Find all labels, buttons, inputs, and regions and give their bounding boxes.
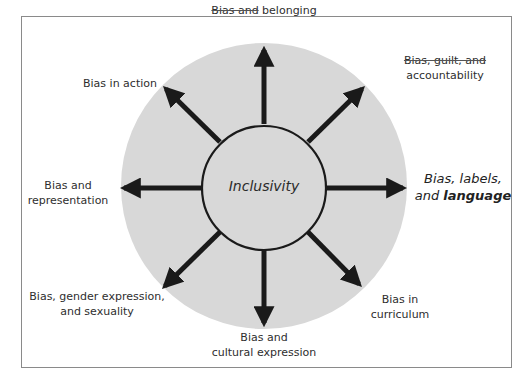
label-line-1: Bias and [20, 178, 116, 193]
label-line-1: Bias in [360, 292, 440, 307]
label-text: belonging [259, 4, 317, 17]
label-line-2: representation [20, 193, 116, 208]
label-bias-and-belonging: Bias and belonging [204, 3, 324, 18]
label-line-2: cultural expression [200, 345, 328, 360]
label-line-2: accountability [390, 68, 500, 83]
label-line-1: Bias, gender expression, [22, 289, 172, 304]
label-bias-labels-language: Bias, labels, and language [404, 170, 522, 204]
label-bias-cultural-expression: Bias and cultural expression [200, 330, 328, 360]
label-bias-gender-sexuality: Bias, gender expression, and sexuality [22, 289, 172, 319]
struck-text: Bias and [211, 4, 258, 17]
label-line-1: Bias, labels, [404, 170, 522, 187]
label-line-2: curriculum [360, 307, 440, 322]
label-bias-guilt-accountability: Bias, guilt, and accountability [390, 53, 500, 83]
label-line-2: and language [404, 187, 522, 204]
label-bias-in-action: Bias in action [72, 76, 168, 91]
label-line-1: Bias in action [72, 76, 168, 91]
label-line-1: Bias, guilt, and [390, 53, 500, 68]
center-label: Inclusivity [214, 178, 314, 194]
label-bias-in-curriculum: Bias in curriculum [360, 292, 440, 322]
label-line-1: Bias and [200, 330, 328, 345]
label-bias-representation: Bias and representation [20, 178, 116, 208]
label-line-2: and sexuality [22, 304, 172, 319]
emphasized-word: language [443, 188, 511, 203]
